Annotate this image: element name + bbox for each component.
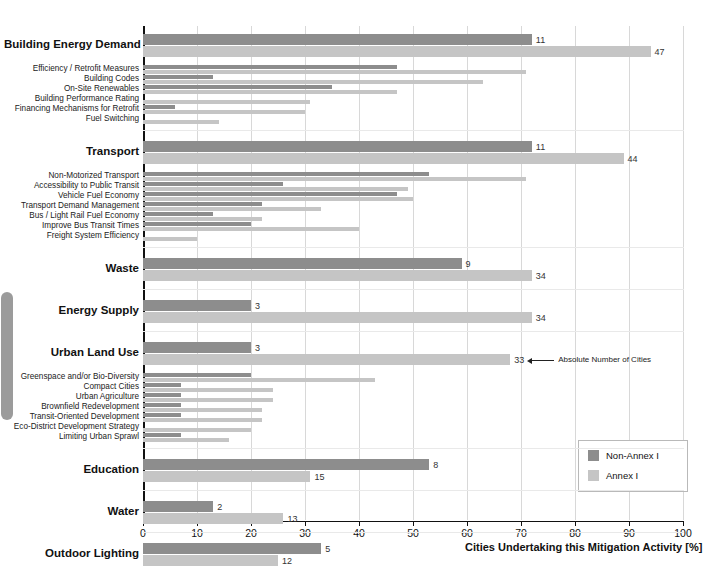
bar-eco-district-development-strategy-annex-i <box>143 428 251 432</box>
value-outdoor-lighting-annex-i: 12 <box>282 556 292 566</box>
mitigation-activity-bar-chart: 0102030405060708090100 Building Energy D… <box>0 0 708 579</box>
value-transport-non-annex-i: 11 <box>536 142 545 152</box>
subcategory-label-fuel-switching: Fuel Switching <box>4 114 139 123</box>
bar-transport-annex-i <box>143 153 624 164</box>
bar-bus-light-rail-fuel-economy-non-annex-i <box>143 212 213 216</box>
bar-vehicle-fuel-economy-annex-i <box>143 197 413 201</box>
bar-greenspace-and-or-bio-diversity-annex-i <box>143 378 375 382</box>
subcategory-label-limiting-urban-sprawl: Limiting Urban Sprawl <box>4 432 139 441</box>
legend-label-non-annex-i: Non-Annex I <box>606 450 659 461</box>
category-label-urban-land-use: Urban Land Use <box>4 346 139 358</box>
tick-50 <box>413 521 414 526</box>
value-building-energy-demand-non-annex-i: 11 <box>536 35 545 45</box>
bar-improve-bus-transit-times-non-annex-i <box>143 222 251 226</box>
bar-transit-oriented-development-annex-i <box>143 418 262 422</box>
legend-label-annex-i: Annex I <box>606 470 638 481</box>
tick-label-10: 10 <box>191 527 203 539</box>
bar-outdoor-lighting-annex-i <box>143 555 278 566</box>
annotation-absolute-number-of-cities: Absolute Number of Cities <box>558 355 651 364</box>
annotation-arrow-head <box>527 358 532 364</box>
group-separator <box>143 247 684 248</box>
value-education-annex-i: 15 <box>314 472 324 482</box>
bar-accessibility-to-public-transit-non-annex-i <box>143 182 283 186</box>
bar-energy-supply-non-annex-i <box>143 300 251 311</box>
tick-40 <box>359 521 360 526</box>
bar-transit-oriented-development-non-annex-i <box>143 413 181 417</box>
tick-100 <box>683 521 684 526</box>
subcategory-label-greenspace-and-or-bio-diversity: Greenspace and/or Bio-Diversity <box>4 372 139 381</box>
bar-accessibility-to-public-transit-annex-i <box>143 187 408 191</box>
subcategory-label-building-performance-rating: Building Performance Rating <box>4 94 139 103</box>
subcategory-label-brownfield-redevelopment: Brownfield Redevelopment <box>4 402 139 411</box>
value-energy-supply-non-annex-i: 3 <box>255 301 260 311</box>
subcategory-label-compact-cities: Compact Cities <box>4 382 139 391</box>
bar-outdoor-lighting-non-annex-i <box>143 543 321 554</box>
bar-energy-supply-annex-i <box>143 312 532 323</box>
group-separator <box>143 331 684 332</box>
bar-building-codes-non-annex-i <box>143 75 213 79</box>
category-label-transport: Transport <box>4 145 139 157</box>
bar-waste-annex-i <box>143 270 532 281</box>
bar-compact-cities-annex-i <box>143 388 273 392</box>
bar-greenspace-and-or-bio-diversity-non-annex-i <box>143 373 251 377</box>
tick-label-20: 20 <box>245 527 257 539</box>
subcategory-label-transport-demand-management: Transport Demand Management <box>4 201 139 210</box>
tick-label-90: 90 <box>623 527 635 539</box>
subcategory-label-accessibility-to-public-transit: Accessibility to Public Transit <box>4 181 139 190</box>
bar-transport-demand-management-annex-i <box>143 207 321 211</box>
value-waste-non-annex-i: 9 <box>466 259 471 269</box>
subcategory-label-transit-oriented-development: Transit-Oriented Development <box>4 412 139 421</box>
bar-urban-agriculture-annex-i <box>143 398 273 402</box>
tick-label-30: 30 <box>299 527 311 539</box>
group-separator <box>143 490 684 491</box>
group-separator <box>143 448 684 449</box>
bar-waste-non-annex-i <box>143 258 462 269</box>
subcategory-label-efficiency-retrofit-measures: Efficiency / Retrofit Measures <box>4 64 139 73</box>
subcategory-label-improve-bus-transit-times: Improve Bus Transit Times <box>4 221 139 230</box>
subcategory-label-vehicle-fuel-economy: Vehicle Fuel Economy <box>4 191 139 200</box>
value-urban-land-use-non-annex-i: 3 <box>255 343 260 353</box>
subcategory-label-on-site-renewables: On-Site Renewables <box>4 84 139 93</box>
bar-improve-bus-transit-times-annex-i <box>143 227 359 231</box>
tick-label-60: 60 <box>461 527 473 539</box>
category-label-energy-supply: Energy Supply <box>4 304 139 316</box>
bar-vehicle-fuel-economy-non-annex-i <box>143 192 397 196</box>
bar-on-site-renewables-annex-i <box>143 90 397 94</box>
tick-label-40: 40 <box>353 527 365 539</box>
value-outdoor-lighting-non-annex-i: 5 <box>325 544 330 554</box>
legend-item-annex-i: Annex I <box>588 470 638 481</box>
legend-swatch-non-annex-i <box>588 450 599 461</box>
bar-building-energy-demand-non-annex-i <box>143 34 532 45</box>
category-label-water: Water <box>4 505 139 517</box>
bar-non-motorized-transport-annex-i <box>143 177 526 181</box>
tick-60 <box>467 521 468 526</box>
group-separator <box>143 532 684 533</box>
bar-urban-agriculture-non-annex-i <box>143 393 181 397</box>
subcategory-label-bus-light-rail-fuel-economy: Bus / Light Rail Fuel Economy <box>4 211 139 220</box>
bar-non-motorized-transport-non-annex-i <box>143 172 429 176</box>
category-label-outdoor-lighting: Outdoor Lighting <box>4 547 139 559</box>
tick-90 <box>629 521 630 526</box>
subcategory-label-building-codes: Building Codes <box>4 74 139 83</box>
legend-item-non-annex-i: Non-Annex I <box>588 450 659 461</box>
tick-label-0: 0 <box>140 527 146 539</box>
bar-water-non-annex-i <box>143 501 213 512</box>
bar-building-energy-demand-annex-i <box>143 46 651 57</box>
tick-70 <box>521 521 522 526</box>
annotation-arrow-line <box>532 360 554 361</box>
value-water-non-annex-i: 2 <box>217 502 222 512</box>
bar-limiting-urban-sprawl-annex-i <box>143 438 229 442</box>
value-building-energy-demand-annex-i: 47 <box>655 47 665 57</box>
subcategory-label-urban-agriculture: Urban Agriculture <box>4 392 139 401</box>
group-separator <box>143 289 684 290</box>
tick-label-70: 70 <box>515 527 527 539</box>
bar-fuel-switching-annex-i <box>143 120 219 124</box>
subcategory-label-non-motorized-transport: Non-Motorized Transport <box>4 171 139 180</box>
subcategory-label-financing-mechanisms-for-retrofit: Financing Mechanisms for Retrofit <box>4 104 139 113</box>
bar-urban-land-use-annex-i <box>143 354 510 365</box>
x-axis-title: Cities Undertaking this Mitigation Activ… <box>465 541 702 553</box>
bar-bus-light-rail-fuel-economy-annex-i <box>143 217 262 221</box>
subcategory-label-eco-district-development-strategy: Eco-District Development Strategy <box>4 422 139 431</box>
value-transport-annex-i: 44 <box>628 154 638 164</box>
bar-compact-cities-non-annex-i <box>143 383 181 387</box>
